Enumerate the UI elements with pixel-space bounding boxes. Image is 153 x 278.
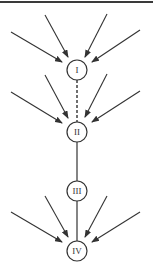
arrow-group-into-node-IV xyxy=(11,196,140,242)
convergence-diagram: I II III IV xyxy=(0,0,153,278)
arrow-icon xyxy=(85,196,107,237)
node-I: I xyxy=(67,60,87,80)
node-II: II xyxy=(67,122,87,142)
node-label: II xyxy=(74,127,80,137)
arrow-icon xyxy=(45,75,68,118)
node-label: III xyxy=(73,186,82,196)
arrow-icon xyxy=(11,32,62,62)
node-label: I xyxy=(76,65,79,75)
arrow-icon xyxy=(11,92,62,123)
arrow-icon xyxy=(85,74,107,117)
node-label: IV xyxy=(72,246,82,256)
arrow-icon xyxy=(92,30,140,62)
arrow-icon xyxy=(92,212,140,242)
arrow-icon xyxy=(45,15,68,57)
arrow-icon xyxy=(45,196,68,237)
arrow-icon xyxy=(11,212,62,242)
arrow-icon xyxy=(92,91,140,122)
arrow-group-into-node-I xyxy=(11,14,140,62)
node-IV: IV xyxy=(67,241,87,261)
arrow-group-into-node-II xyxy=(11,74,140,123)
arrow-icon xyxy=(85,14,107,57)
node-III: III xyxy=(67,181,87,201)
